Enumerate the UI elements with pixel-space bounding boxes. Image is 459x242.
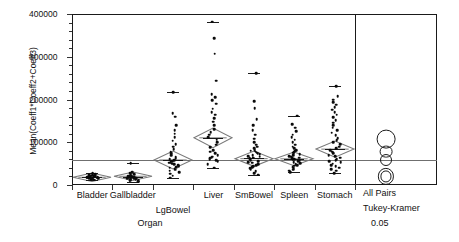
data-point	[334, 165, 337, 168]
data-point	[334, 134, 337, 137]
data-point	[336, 114, 339, 117]
data-point	[333, 111, 336, 114]
data-point	[214, 114, 217, 117]
data-point	[172, 145, 175, 148]
data-point	[329, 149, 332, 152]
data-point	[211, 155, 214, 158]
data-point	[172, 148, 175, 151]
data-point	[252, 129, 255, 132]
data-point	[334, 119, 337, 122]
data-point	[215, 144, 218, 147]
data-point	[207, 136, 210, 139]
data-point	[212, 149, 215, 152]
x-category-spleen: Spleen	[280, 190, 308, 200]
data-point	[174, 155, 177, 158]
data-point	[332, 116, 335, 119]
data-point	[213, 117, 216, 120]
data-point	[177, 164, 180, 167]
panel-divider	[355, 14, 356, 185]
data-point	[171, 112, 174, 115]
data-point	[214, 96, 217, 99]
data-point	[169, 150, 172, 153]
data-point	[258, 155, 261, 158]
data-point	[173, 132, 176, 135]
data-point	[215, 102, 218, 105]
data-point	[173, 129, 176, 132]
data-point	[331, 162, 334, 165]
data-point	[336, 129, 339, 132]
alpha-label: 0.05	[371, 218, 389, 228]
data-point	[255, 144, 258, 147]
data-point	[215, 79, 218, 82]
data-point	[335, 85, 338, 88]
comparison-circle[interactable]	[380, 154, 392, 166]
group-bladder	[72, 14, 112, 185]
data-point	[328, 160, 331, 163]
method-label: Tukey-Kramer	[363, 203, 420, 213]
group-spleen	[274, 14, 314, 185]
data-point	[298, 156, 301, 159]
data-point	[174, 143, 177, 146]
data-point	[169, 170, 172, 173]
data-point	[175, 124, 178, 127]
data-point	[208, 133, 211, 136]
data-point	[253, 100, 256, 103]
data-point	[294, 144, 297, 147]
data-point	[299, 159, 302, 162]
data-point	[168, 158, 171, 161]
group-gallbladder	[112, 14, 152, 185]
group-liver	[193, 14, 233, 185]
data-point	[216, 154, 219, 157]
x-tick	[355, 185, 356, 190]
data-point	[291, 141, 294, 144]
group-stomach	[315, 14, 355, 185]
data-point	[288, 170, 291, 173]
data-point	[178, 171, 181, 174]
chart-root: Mean(Coeff1*Coeff2+Coeff3) Organ 0100000…	[0, 0, 459, 242]
data-point	[251, 154, 254, 157]
x-tick	[315, 185, 316, 190]
data-point	[332, 124, 335, 127]
data-point	[248, 157, 251, 160]
x-category-liver: Liver	[204, 190, 224, 200]
data-point	[94, 173, 97, 176]
data-point	[212, 108, 215, 111]
data-point	[339, 143, 342, 146]
data-point	[251, 161, 254, 164]
data-point	[255, 72, 258, 75]
x-tick	[193, 185, 194, 190]
data-point	[213, 124, 216, 127]
data-point	[253, 138, 256, 141]
data-point	[215, 138, 218, 141]
max-tick	[248, 73, 260, 74]
data-point	[293, 161, 296, 164]
data-point	[332, 101, 335, 104]
data-point	[335, 103, 338, 106]
data-point	[249, 150, 252, 153]
data-point	[173, 136, 176, 139]
data-point	[172, 174, 175, 177]
data-point	[332, 98, 335, 101]
data-point	[252, 124, 255, 127]
x-category-stomach: Stomach	[317, 190, 353, 200]
x-category-lgbowel: LgBowel	[156, 205, 191, 215]
data-point	[174, 115, 177, 118]
data-point	[91, 172, 94, 175]
x-axis-label: Organ	[0, 218, 300, 228]
data-point	[257, 160, 260, 163]
data-point	[257, 173, 260, 176]
data-point	[331, 132, 334, 135]
data-point	[253, 141, 256, 144]
data-point	[213, 52, 216, 55]
max-tick	[207, 22, 219, 23]
data-point	[334, 155, 337, 158]
data-point	[131, 171, 134, 174]
data-point	[333, 106, 336, 109]
y-tick-label: 300000	[29, 52, 57, 62]
data-point	[328, 154, 331, 157]
data-point	[292, 133, 295, 136]
data-point	[296, 114, 299, 117]
data-point	[254, 133, 257, 136]
data-point	[335, 158, 338, 161]
data-point	[332, 141, 335, 144]
